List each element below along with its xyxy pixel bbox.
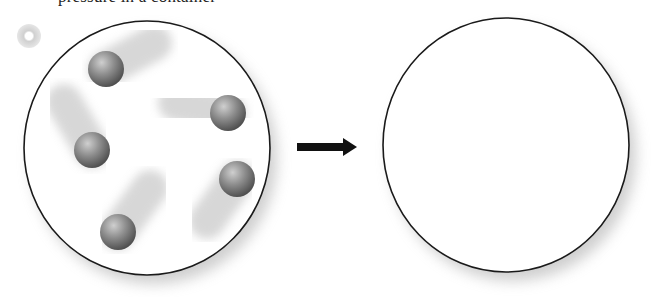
diagram-svg: [0, 0, 657, 297]
figure-caption-cropped: pressure in a container: [58, 0, 216, 7]
gas-particle: [88, 51, 124, 87]
figure-canvas: pressure in a container: [0, 0, 657, 297]
gas-particle: [210, 95, 246, 131]
right-arrow-icon: [297, 138, 357, 156]
left-container: [24, 21, 277, 284]
gas-particle: [74, 132, 110, 168]
right-container: [383, 18, 636, 281]
gas-particle: [219, 161, 255, 197]
gas-particle: [100, 214, 136, 250]
right-container-outline: [383, 18, 629, 272]
disc-icon: [17, 24, 41, 48]
